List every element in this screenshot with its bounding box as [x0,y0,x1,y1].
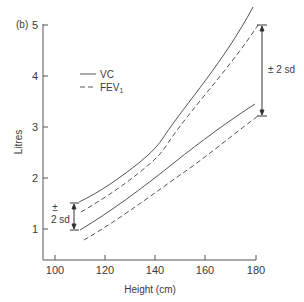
y-axis-label: Litres [13,130,24,154]
legend-vc-label: VC [100,69,114,80]
chart: 5 4 3 2 1 100 120 140 160 180 Height (cm… [0,0,304,302]
curves [79,7,258,240]
x-tick-label: 100 [46,264,64,276]
x-tick-label: 140 [146,264,164,276]
left-sd-label: 2 sd [51,214,70,225]
x-axis-label: Height (cm) [124,284,176,295]
right-sd-bracket [257,25,267,116]
fev-lower-line [84,116,258,240]
x-tick-label: 120 [96,264,114,276]
y-tick-label: 4 [32,70,38,82]
vc-upper-line [79,7,253,202]
left-sd-bracket [70,203,79,230]
right-sd-label: ± 2 sd [268,64,295,75]
legend-fev-label: FEV1 [100,82,123,94]
y-tick-label: 5 [32,19,38,31]
x-tick-label: 180 [247,264,265,276]
y-tick-label: 3 [32,121,38,133]
vc-lower-line [80,104,255,230]
y-tick-label: 1 [32,223,38,235]
left-pm-label: ± [52,202,58,213]
fev-upper-line [81,25,258,212]
x-tick-label: 160 [196,264,214,276]
legend: VC FEV1 [80,69,123,94]
panel-label: (b) [16,19,28,30]
y-tick-label: 2 [32,172,38,184]
